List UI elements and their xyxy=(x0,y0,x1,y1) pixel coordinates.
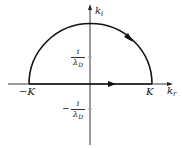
direction-arrow-icon xyxy=(108,81,116,87)
imaginary-axis-label: ki xyxy=(95,6,103,18)
real-axis-label: kr xyxy=(167,86,176,98)
minus-k-label: −K xyxy=(19,87,35,97)
pole-numerator: i xyxy=(71,100,85,109)
axis-label-sub: i xyxy=(101,10,103,18)
lower-pole-sign: − xyxy=(62,104,70,113)
pole-denominator: λD xyxy=(71,110,85,120)
axis-label-sub: r xyxy=(173,90,176,98)
imaginary-axis-arrowhead-icon xyxy=(88,4,92,10)
contour-arc xyxy=(29,24,152,84)
pole-denominator: λD xyxy=(71,58,85,68)
pole-numerator: i xyxy=(71,48,85,57)
lower-pole-label: i λD xyxy=(71,100,85,120)
k-label: K xyxy=(146,87,153,97)
upper-pole-label: i λD xyxy=(71,48,85,68)
contour-diagram xyxy=(0,0,182,148)
